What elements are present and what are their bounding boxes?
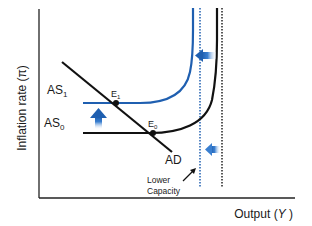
as-ad-diagram: Inflation rate (π) Output (Y ) E1 E0 AS1… (0, 0, 312, 226)
e0-point (150, 130, 156, 136)
e0-label: E0 (148, 119, 158, 130)
capacity-shift-arrow-bottom-icon (205, 143, 220, 156)
as1-label: AS1 (47, 83, 68, 99)
y-axis-label: Inflation rate (π) (15, 65, 29, 151)
as0-label: AS0 (44, 116, 65, 132)
ad-label: AD (165, 153, 182, 167)
ad-line (62, 62, 172, 152)
capacity-shift-arrow-top-icon (195, 49, 216, 62)
upward-shift-arrow-icon (90, 108, 107, 129)
lower-capacity-label-line1: Lower (147, 175, 170, 185)
e1-label: E1 (111, 89, 121, 100)
as1-curve (83, 8, 193, 103)
x-axis-label: Output (Y ) (234, 207, 293, 221)
lower-capacity-label-line2: Capacity (147, 186, 181, 196)
e1-point (113, 100, 119, 106)
lower-capacity-pointer-arrow-icon (183, 168, 196, 181)
